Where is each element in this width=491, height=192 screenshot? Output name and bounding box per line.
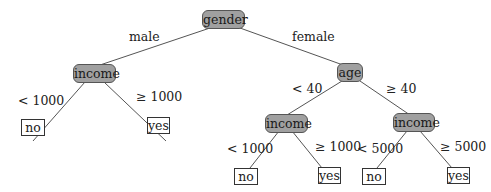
edge-label-lt1000: < 1000 — [18, 93, 64, 108]
edge-label-ge40: ≥ 40 — [386, 81, 416, 96]
edge-label-lt5000: < 5000 — [357, 141, 403, 156]
leaf-old-high-yes: yes — [447, 167, 470, 184]
node-age: age — [337, 63, 363, 82]
leaf-male-low-no: no — [21, 119, 45, 136]
leaf-male-high-yes: yes — [147, 117, 170, 134]
node-income-male: income — [73, 64, 116, 83]
edge-label-young-ge1000: ≥ 1000 — [315, 139, 361, 154]
leaf-old-low-no: no — [362, 168, 386, 185]
tree-edges — [0, 0, 491, 192]
node-gender: gender — [202, 10, 245, 29]
leaf-young-high-yes: yes — [318, 167, 341, 184]
leaf-young-low-no: no — [234, 168, 258, 185]
edge-label-young-lt1000: < 1000 — [227, 141, 273, 156]
edge-label-ge5000: ≥ 5000 — [440, 139, 486, 154]
edge-label-ge1000: ≥ 1000 — [136, 89, 182, 104]
edge-label-female: female — [292, 29, 335, 44]
edge-label-lt40: < 40 — [292, 81, 322, 96]
node-income-old: income — [393, 113, 435, 132]
edge-label-male: male — [129, 29, 160, 44]
node-income-young: income — [265, 114, 308, 133]
